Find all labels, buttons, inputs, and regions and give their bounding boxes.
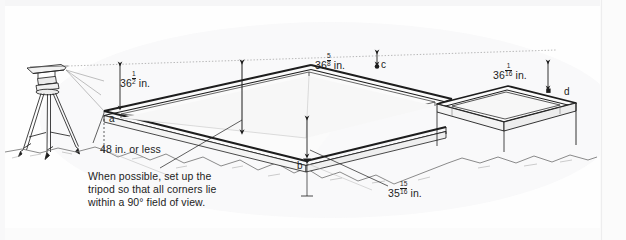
corner-label-b: b <box>297 160 303 171</box>
tripod-distance-label: 48 in. or less <box>100 143 161 155</box>
corner-marker-c <box>375 64 380 69</box>
caption-line-2: tripod so that all corners lie <box>88 183 216 196</box>
dimension-label-center: 3658 in. <box>315 54 345 71</box>
dimension-label-front: 351516 in. <box>388 182 422 199</box>
corner-label-c: c <box>381 59 386 70</box>
corner-label-d: d <box>564 86 570 97</box>
caption-line-1: When possible, set up the <box>88 170 216 183</box>
instruction-caption: When possible, set up the tripod so that… <box>88 170 216 210</box>
corner-label-a: a <box>109 113 115 124</box>
corner-marker-d <box>546 89 550 93</box>
caption-line-3: within a 90° field of view. <box>88 196 216 209</box>
dimension-label-right: 36116 in. <box>493 64 527 81</box>
dimension-label-left: 3612 in. <box>120 72 150 89</box>
illustration-canvas: 3612 in. 3658 in. 36116 in. 351516 in. 4… <box>0 0 626 240</box>
